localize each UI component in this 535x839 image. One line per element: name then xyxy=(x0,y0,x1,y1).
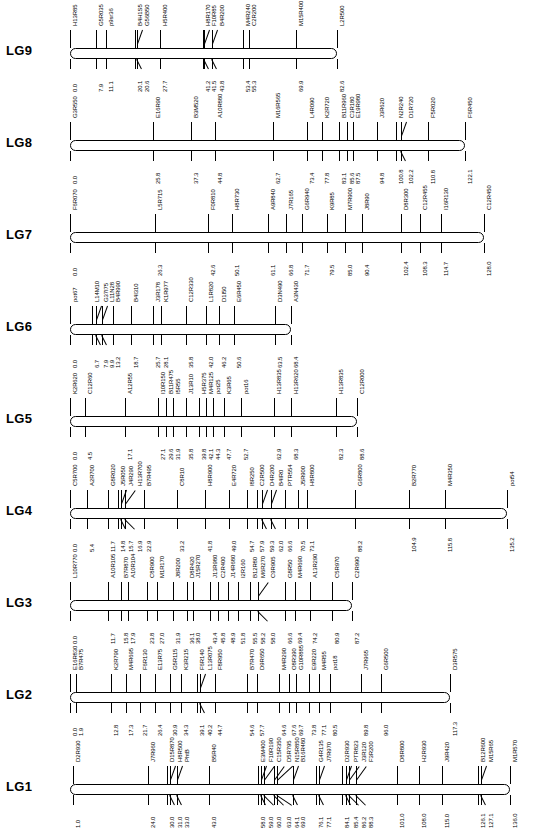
marker-tick xyxy=(209,766,210,784)
position-tick xyxy=(153,151,154,161)
marker: J13R98043.4 xyxy=(210,558,211,650)
marker: H13R83562.9 xyxy=(274,374,275,466)
marker: C12R33035.8 xyxy=(186,282,187,374)
position-tick xyxy=(92,335,93,345)
marker: E16R9025.8 xyxy=(153,98,154,190)
position-tick xyxy=(113,335,114,345)
position-tick xyxy=(85,427,86,437)
marker-tick xyxy=(243,30,244,48)
marker-position: 54.7 xyxy=(249,541,255,552)
position-tick xyxy=(158,427,159,437)
marker: J9R420115.0 xyxy=(442,742,443,834)
marker-position: 117.3 xyxy=(452,722,458,736)
marker-tick xyxy=(274,398,275,416)
position-tick xyxy=(285,611,286,621)
marker-name: J3R120 xyxy=(361,742,367,762)
position-tick xyxy=(234,335,235,345)
marker: M15R40069.9 xyxy=(296,6,297,98)
marker: J5R05014.8 xyxy=(118,466,119,558)
marker: D8R800101.0 xyxy=(397,742,398,834)
position-tick xyxy=(205,519,206,529)
marker: pot2544.3 xyxy=(213,374,214,466)
marker-name: D1R720 xyxy=(408,97,414,118)
marker-position: 88.2 xyxy=(358,541,364,552)
marker-name: C12R330 xyxy=(188,277,194,302)
marker: M4R24053.4 xyxy=(243,6,244,98)
marker: B12R600126.1 xyxy=(478,742,479,834)
marker-tick xyxy=(310,582,311,600)
marker-tick xyxy=(70,582,71,600)
marker: I5R5531.9 xyxy=(173,374,174,466)
marker-position: 115.8 xyxy=(447,538,453,552)
marker-name: K3R215 xyxy=(183,649,189,670)
marker-name: A10R104 xyxy=(130,554,136,578)
marker-tick xyxy=(87,490,88,508)
marker-name: D8R300 xyxy=(403,189,409,210)
marker-position: 57.7 xyxy=(259,725,265,736)
marker-position: 77.8 xyxy=(324,173,330,184)
marker-position: 44.3 xyxy=(216,449,222,460)
marker-name: C5R700 xyxy=(72,465,78,486)
marker: I2R16051.8 xyxy=(238,558,239,650)
marker: J3R62094.8 xyxy=(377,98,378,190)
marker-name: C2R400 xyxy=(220,557,226,578)
marker: G37I757.9 xyxy=(96,282,97,374)
marker-name: F0R810 xyxy=(210,189,216,210)
position-tick xyxy=(355,519,356,529)
marker-tick xyxy=(286,214,287,232)
marker-tick xyxy=(289,674,290,692)
marker-tick xyxy=(420,214,421,232)
marker-name: pot16 xyxy=(243,379,249,394)
marker-position: 35.8 xyxy=(188,357,194,368)
linkage-group-label: LG5 xyxy=(6,411,32,426)
linkage-group-label: LG8 xyxy=(6,135,32,150)
marker-tick xyxy=(442,766,443,784)
marker: C12R455108.3 xyxy=(420,190,421,282)
marker: B11R96083.1 xyxy=(339,98,340,190)
marker-name: H8R900 xyxy=(207,465,213,486)
marker-position: 0.0 xyxy=(72,636,78,644)
marker: B4I31018.7 xyxy=(131,282,132,374)
position-tick xyxy=(111,703,112,713)
marker-name: H8R800 xyxy=(309,465,315,486)
marker-position: 88.6 xyxy=(359,449,365,460)
position-tick xyxy=(186,335,187,345)
marker-name: K2R790 xyxy=(114,649,120,670)
marker: K9R8579.5 xyxy=(327,190,328,282)
marker-position: 135.2 xyxy=(510,537,516,552)
marker: F5R020110.8 xyxy=(428,98,429,190)
marker-tick xyxy=(155,214,156,232)
marker-tick xyxy=(70,490,71,508)
marker: H8R50031.0 xyxy=(170,742,171,834)
marker: K3R6547.7 xyxy=(224,374,225,466)
marker-tick xyxy=(167,766,168,784)
marker-name: J15R270 xyxy=(195,555,201,578)
marker-tick xyxy=(268,214,269,232)
marker-name: M4R690 xyxy=(297,556,303,578)
position-tick xyxy=(229,519,230,529)
marker: J4R29015.7 xyxy=(121,466,122,558)
marker-name: B16R480 xyxy=(300,738,306,762)
marker: G6R94071.7 xyxy=(302,190,303,282)
position-tick xyxy=(396,151,397,161)
marker: F10R8541.5 xyxy=(204,6,205,98)
marker-tick xyxy=(186,398,187,416)
marker-name: E4R720 xyxy=(231,465,237,486)
marker-position: 42.6 xyxy=(210,265,216,276)
marker-tick xyxy=(291,398,292,416)
marker-position: 12.8 xyxy=(114,725,120,736)
marker: M4R12542.1 xyxy=(206,374,207,466)
marker-position: 5.4 xyxy=(90,544,96,552)
marker: M4R69069.4 xyxy=(295,558,296,650)
position-tick xyxy=(465,151,466,161)
marker-position: 55.3 xyxy=(251,81,257,92)
marker-name: B4I310 xyxy=(133,284,139,302)
position-tick xyxy=(445,519,446,529)
position-tick xyxy=(247,519,248,529)
marker-name: K1R977 xyxy=(163,281,169,302)
marker-name: F6R130 xyxy=(142,649,148,670)
position-tick xyxy=(206,427,207,437)
marker-name: G8R50 xyxy=(288,559,294,578)
marker: H8R73050.1 xyxy=(232,190,233,282)
marker: A2R7005.4 xyxy=(87,466,88,558)
